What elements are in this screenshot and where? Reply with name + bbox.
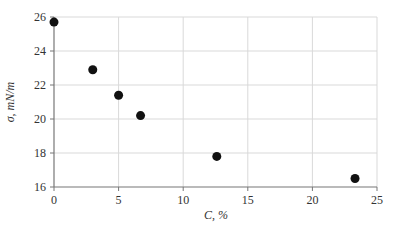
x-tick-label: 15 xyxy=(242,193,254,207)
data-point xyxy=(212,152,221,161)
grid-lines xyxy=(54,17,377,187)
data-point xyxy=(88,65,97,74)
data-point xyxy=(114,91,123,100)
y-tick-label: 20 xyxy=(34,112,46,126)
data-point xyxy=(351,174,360,183)
x-axis-tick-labels: 0510152025 xyxy=(51,193,383,207)
y-tick-label: 24 xyxy=(34,44,46,58)
x-tick-label: 5 xyxy=(116,193,122,207)
axes xyxy=(50,17,377,191)
x-tick-label: 10 xyxy=(177,193,189,207)
y-tick-label: 16 xyxy=(34,180,46,194)
y-axis-tick-labels: 161820222426 xyxy=(34,10,46,194)
x-tick-label: 20 xyxy=(306,193,318,207)
data-point xyxy=(50,18,59,27)
x-tick-label: 25 xyxy=(371,193,383,207)
y-tick-label: 18 xyxy=(34,146,46,160)
data-points xyxy=(50,18,360,183)
y-tick-label: 26 xyxy=(34,10,46,24)
y-axis-label: σ, mN/m xyxy=(3,81,17,122)
y-tick-label: 22 xyxy=(34,78,46,92)
x-tick-label: 0 xyxy=(51,193,57,207)
x-axis-label: C, % xyxy=(204,208,228,222)
scatter-chart: 161820222426 0510152025 C, % σ, mN/m xyxy=(0,0,399,230)
data-point xyxy=(136,111,145,120)
